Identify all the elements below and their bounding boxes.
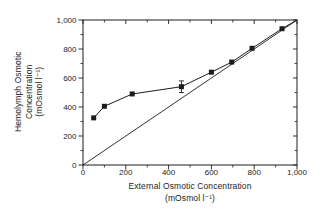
data-point-marker [280, 26, 285, 31]
x-tick-label: 0 [81, 168, 86, 177]
y-tick-label: 800 [63, 45, 77, 54]
y-axis-title-line3: (mOsmol l⁻¹) [34, 7, 45, 177]
y-tick-label: 400 [63, 103, 77, 112]
data-line [94, 20, 297, 118]
data-point-marker [209, 70, 214, 75]
y-axis-title-line1: Hemolymph Osmotic [13, 7, 24, 177]
isosmotic-line [83, 20, 297, 165]
y-tick-label: 0 [72, 161, 77, 170]
x-tick-label: 400 [162, 168, 176, 177]
data-point-marker [229, 60, 234, 65]
data-point-marker [91, 115, 96, 120]
data-point-marker [250, 46, 255, 51]
y-tick-label: 600 [63, 74, 77, 83]
y-axis-title-line2: Concentration [24, 7, 35, 177]
x-tick-label: 600 [205, 168, 219, 177]
x-tick-label: 800 [248, 168, 262, 177]
x-axis-title-line1: External Osmotic Concentration [63, 181, 317, 193]
x-axis-title-line2: (mOsmol l⁻¹) [63, 193, 317, 205]
data-point-marker [130, 91, 135, 96]
x-tick-label: 1,000 [287, 168, 308, 177]
y-tick-label: 1,000 [56, 16, 77, 25]
data-point-marker [102, 104, 107, 109]
x-axis-title: External Osmotic Concentration (mOsmol l… [63, 181, 317, 204]
x-tick-label: 200 [119, 168, 133, 177]
data-point-marker [179, 84, 184, 89]
y-tick-label: 200 [63, 132, 77, 141]
osmoregulation-figure: 02004006008001,00002004006008001,000 Hem… [0, 0, 329, 221]
y-axis-title: Hemolymph Osmotic Concentration (mOsmol … [13, 7, 45, 177]
